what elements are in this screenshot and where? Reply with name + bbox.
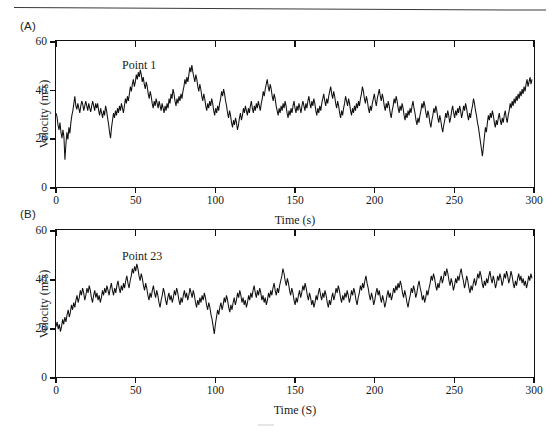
top-divider-rule bbox=[14, 7, 546, 11]
panel-b: (B) 0204060Velocity (m/s)050100150200250… bbox=[0, 205, 560, 435]
x-tick-0 bbox=[55, 187, 57, 193]
panel-a-letter: (A) bbox=[20, 20, 36, 32]
x-tick-100 bbox=[215, 377, 217, 383]
x-tick-top-50 bbox=[135, 230, 137, 236]
x-tick-150 bbox=[294, 377, 296, 383]
x-tick-top-200 bbox=[374, 41, 376, 47]
x-tick-top-300 bbox=[533, 41, 535, 47]
series-label-point-23: Point 23 bbox=[122, 249, 162, 264]
figure-container: (A) 0204060Velocity (m/s)050100150200250… bbox=[0, 0, 560, 435]
series-label-point-1: Point 1 bbox=[122, 58, 156, 73]
y-axis-title: Velocity (m/s) bbox=[37, 269, 52, 337]
x-tick-200 bbox=[374, 187, 376, 193]
x-tick-top-100 bbox=[215, 230, 217, 236]
velocity-trace-b bbox=[56, 264, 532, 334]
x-tick-top-300 bbox=[533, 230, 535, 236]
x-tick-150 bbox=[294, 187, 296, 193]
x-tick-label-200: 200 bbox=[366, 384, 383, 396]
x-tick-250 bbox=[454, 187, 456, 193]
x-tick-300 bbox=[533, 377, 535, 383]
x-tick-label-50: 50 bbox=[130, 384, 142, 396]
x-tick-label-100: 100 bbox=[207, 384, 224, 396]
y-tick-label-60: 60 bbox=[36, 35, 48, 47]
x-tick-label-250: 250 bbox=[446, 384, 463, 396]
y-tick-label-60: 60 bbox=[36, 224, 48, 236]
scan-artifact bbox=[258, 424, 274, 426]
x-tick-0 bbox=[55, 377, 57, 383]
x-tick-label-150: 150 bbox=[286, 384, 303, 396]
panel-a: (A) 0204060Velocity (m/s)050100150200250… bbox=[0, 14, 560, 214]
x-tick-100 bbox=[215, 187, 217, 193]
velocity-trace-a bbox=[56, 65, 532, 160]
x-tick-top-50 bbox=[135, 41, 137, 47]
x-tick-top-200 bbox=[374, 230, 376, 236]
x-tick-top-250 bbox=[454, 41, 456, 47]
x-axis-title: Time (S) bbox=[274, 403, 317, 418]
y-axis-title: Velocity (m/s) bbox=[37, 80, 52, 148]
x-tick-250 bbox=[454, 377, 456, 383]
x-tick-top-250 bbox=[454, 230, 456, 236]
x-tick-label-300: 300 bbox=[525, 384, 542, 396]
x-tick-50 bbox=[135, 187, 137, 193]
x-tick-top-150 bbox=[294, 41, 296, 47]
x-tick-50 bbox=[135, 377, 137, 383]
x-tick-top-0 bbox=[55, 230, 57, 236]
y-tick-label-0: 0 bbox=[41, 371, 47, 383]
x-tick-300 bbox=[533, 187, 535, 193]
x-tick-label-0: 0 bbox=[53, 384, 59, 396]
panel-b-letter: (B) bbox=[20, 208, 36, 220]
x-tick-200 bbox=[374, 377, 376, 383]
x-tick-top-150 bbox=[294, 230, 296, 236]
x-tick-top-100 bbox=[215, 41, 217, 47]
y-tick-label-0: 0 bbox=[41, 181, 47, 193]
x-tick-top-0 bbox=[55, 41, 57, 47]
